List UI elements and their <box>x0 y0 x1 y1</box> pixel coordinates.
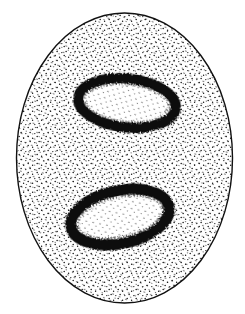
cell-illustration: Stippled ink illustration of an oval cel… <box>0 0 245 314</box>
cell-drawing <box>0 0 245 314</box>
cytoplasm-stipple <box>0 0 245 314</box>
